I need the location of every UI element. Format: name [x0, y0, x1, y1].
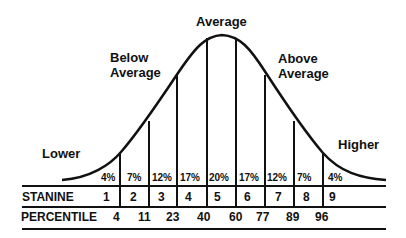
- percent-band-1: 4%: [101, 172, 115, 183]
- percentile-4: 4: [113, 210, 120, 224]
- stanine-7: 7: [275, 190, 282, 204]
- percentile-23: 23: [166, 210, 179, 224]
- percentile-89: 89: [286, 210, 299, 224]
- percent-band-9: 4%: [328, 172, 342, 183]
- percent-band-6: 17%: [239, 172, 259, 183]
- stanine-row-header: STANINE: [22, 190, 74, 204]
- stanine-8: 8: [303, 190, 310, 204]
- label-lower: Lower: [42, 146, 80, 161]
- percentile-row-header: PERCENTILE: [21, 210, 97, 224]
- stanine-4: 4: [185, 190, 192, 204]
- percentile-96: 96: [315, 210, 328, 224]
- percent-band-2: 7%: [127, 172, 141, 183]
- percent-band-5: 20%: [209, 172, 229, 183]
- stanine-5: 5: [214, 190, 221, 204]
- label-average: Average: [196, 14, 247, 29]
- label-above-average-line2: Average: [278, 66, 329, 81]
- percent-band-7: 12%: [267, 172, 287, 183]
- percent-band-3: 12%: [152, 172, 172, 183]
- label-higher: Higher: [338, 137, 379, 152]
- label-below-average-line2: Average: [110, 65, 161, 80]
- percentile-11: 11: [138, 210, 151, 224]
- percentile-60: 60: [229, 210, 242, 224]
- stanine-1: 1: [103, 190, 110, 204]
- percent-band-4: 17%: [180, 172, 200, 183]
- label-above-average-line1: Above: [278, 51, 318, 66]
- stanine-9: 9: [329, 190, 336, 204]
- label-below-average-line1: Below: [110, 50, 148, 65]
- stanine-3: 3: [158, 190, 165, 204]
- percentile-77: 77: [256, 210, 269, 224]
- stanine-2: 2: [130, 190, 137, 204]
- stanine-6: 6: [244, 190, 251, 204]
- percentile-40: 40: [197, 210, 210, 224]
- percent-band-8: 7%: [297, 172, 311, 183]
